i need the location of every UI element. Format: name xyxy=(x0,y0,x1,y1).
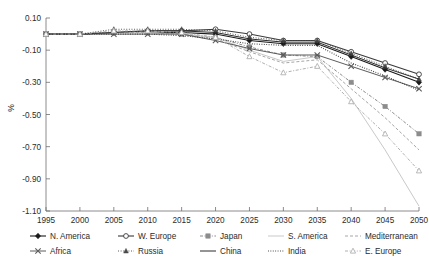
series-mediterranean xyxy=(46,32,419,149)
x-tick-label: 2035 xyxy=(308,216,327,225)
legend-label: N. America xyxy=(50,232,90,241)
series-russia xyxy=(44,27,422,81)
y-tick-label: -0.30 xyxy=(22,78,41,87)
legend-item-n-america[interactable]: N. America xyxy=(30,232,90,241)
series-line xyxy=(46,31,419,79)
y-tick-label: -1.10 xyxy=(22,207,41,216)
series-n-america xyxy=(43,30,421,85)
x-tick-label: 2015 xyxy=(173,216,192,225)
series-japan xyxy=(44,30,421,136)
series-line xyxy=(46,29,419,79)
data-point-marker xyxy=(35,233,40,239)
x-tick-label: 2025 xyxy=(240,216,259,225)
legend-item-japan[interactable]: Japan xyxy=(200,232,243,241)
data-point-marker xyxy=(124,234,129,239)
series-line xyxy=(46,32,419,133)
y-tick-label: -0.10 xyxy=(22,46,41,55)
x-tick-label: 2050 xyxy=(410,216,429,225)
series-lines xyxy=(43,27,421,207)
x-tick-label: 2000 xyxy=(71,216,90,225)
y-tick-label: -0.90 xyxy=(22,175,41,184)
series-line xyxy=(46,32,419,206)
legend-item-s-america[interactable]: S. America xyxy=(268,232,328,241)
series-line xyxy=(46,32,419,82)
legend-label: W. Europe xyxy=(138,232,177,241)
legend-item-e-europe[interactable]: E. Europe xyxy=(345,247,402,256)
data-point-marker xyxy=(417,132,421,136)
data-point-marker xyxy=(416,168,421,173)
series-s-america xyxy=(46,32,419,206)
legend-label: S. America xyxy=(288,232,328,241)
y-tick-label: -0.50 xyxy=(22,111,41,120)
legend-item-w-europe[interactable]: W. Europe xyxy=(118,232,177,241)
chart-canvas: 0.10-0.10-0.30-0.50-0.70-0.90-1.10 19952… xyxy=(0,0,429,267)
legend-item-india[interactable]: India xyxy=(268,247,306,256)
series-e-europe xyxy=(43,28,421,173)
y-axis: 0.10-0.10-0.30-0.50-0.70-0.90-1.10 xyxy=(22,14,50,216)
y-axis-title: % xyxy=(6,104,16,112)
series-china xyxy=(46,31,419,79)
data-point-marker xyxy=(417,72,422,77)
chart-legend: N. AmericaW. EuropeJapanS. AmericaMedite… xyxy=(30,232,418,256)
data-point-marker xyxy=(315,63,320,68)
x-tick-label: 2005 xyxy=(105,216,124,225)
data-point-marker xyxy=(416,86,421,91)
line-chart: 0.10-0.10-0.30-0.50-0.70-0.90-1.10 19952… xyxy=(0,0,429,267)
series-line xyxy=(46,32,419,149)
legend-label: Mediterranean xyxy=(365,232,418,241)
legend-label: India xyxy=(288,247,306,256)
data-point-marker xyxy=(383,104,387,108)
legend-item-mediterranean[interactable]: Mediterranean xyxy=(345,232,418,241)
legend-label: Japan xyxy=(220,232,243,241)
legend-label: China xyxy=(220,247,242,256)
legend-item-russia[interactable]: Russia xyxy=(118,247,163,256)
data-point-marker xyxy=(247,54,252,59)
legend-item-china[interactable]: China xyxy=(200,247,242,256)
legend-label: Africa xyxy=(50,247,71,256)
x-tick-label: 2045 xyxy=(376,216,395,225)
data-point-marker xyxy=(382,131,387,136)
legend-label: Russia xyxy=(138,247,163,256)
y-tick-label: 0.10 xyxy=(25,14,41,23)
legend-label: E. Europe xyxy=(365,247,402,256)
legend-item-africa[interactable]: Africa xyxy=(30,247,71,256)
x-tick-label: 2040 xyxy=(342,216,361,225)
y-tick-label: -0.70 xyxy=(22,143,41,152)
x-tick-label: 1995 xyxy=(37,216,56,225)
data-point-marker xyxy=(124,248,129,253)
data-point-marker xyxy=(349,80,353,84)
x-tick-label: 2020 xyxy=(206,216,225,225)
x-tick-label: 2030 xyxy=(274,216,293,225)
data-point-marker xyxy=(206,234,210,238)
data-point-marker xyxy=(348,64,353,69)
series-line xyxy=(46,31,419,171)
x-axis: 1995200020052010201520202025203020352040… xyxy=(37,207,429,225)
x-tick-label: 2010 xyxy=(139,216,158,225)
